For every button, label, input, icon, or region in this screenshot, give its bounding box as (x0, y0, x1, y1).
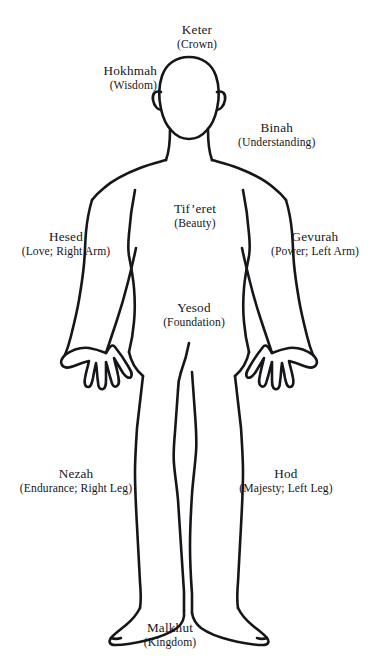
label-keter: Keter (Crown) (177, 22, 217, 51)
label-keter-gloss: (Crown) (177, 38, 217, 52)
label-malkhut-name: Malkhut (144, 620, 196, 636)
label-binah-name: Binah (238, 120, 315, 136)
label-binah: Binah (Understanding) (238, 120, 315, 149)
leg-right-inner (174, 390, 184, 611)
label-nezah-name: Nezah (20, 466, 132, 482)
crotch-right-inner (178, 372, 181, 390)
label-hesed: Hesed (Love; Right Arm) (22, 229, 111, 258)
label-tiferet: Tif’eret (Beauty) (174, 201, 216, 230)
label-gevurah-name: Gevurah (271, 229, 359, 245)
label-hesed-name: Hesed (22, 229, 111, 245)
label-tiferet-name: Tif’eret (174, 201, 216, 217)
label-malkhut-gloss: (Kingdom) (144, 636, 196, 650)
hand-right (61, 346, 132, 390)
label-gevurah: Gevurah (Power; Left Arm) (271, 229, 359, 258)
head-outline (159, 57, 219, 139)
label-yesod-gloss: (Foundation) (163, 316, 225, 330)
label-hokhmah-name: Hokhmah (104, 63, 157, 79)
label-yesod-name: Yesod (163, 300, 225, 316)
foot-right-toe (111, 638, 121, 639)
neck-right (166, 130, 170, 160)
crotch (181, 343, 189, 372)
label-hokhmah-gloss: (Wisdom) (104, 79, 157, 93)
label-hod: Hod (Majesty; Left Leg) (239, 466, 332, 495)
label-hod-name: Hod (239, 466, 332, 482)
label-malkhut: Malkhut (Kingdom) (144, 620, 196, 649)
neck-left (208, 130, 212, 160)
human-body-outline (0, 0, 378, 661)
label-yesod: Yesod (Foundation) (163, 300, 225, 329)
label-hokhmah: Hokhmah (Wisdom) (104, 63, 157, 92)
shoulder-right (92, 160, 166, 200)
label-nezah: Nezah (Endurance; Right Leg) (20, 466, 132, 495)
label-binah-gloss: (Understanding) (238, 136, 315, 150)
hand-left (246, 346, 317, 390)
leg-left-inner (190, 372, 196, 613)
shoulder-left (212, 160, 286, 200)
arm-right-outer (65, 200, 92, 355)
arm-left-outer (286, 200, 313, 355)
label-tiferet-gloss: (Beauty) (174, 217, 216, 231)
foot-left-toe (257, 638, 267, 639)
label-keter-name: Keter (177, 22, 217, 38)
label-nezah-gloss: (Endurance; Right Leg) (20, 482, 132, 496)
sefirot-body-diagram: Keter (Crown) Hokhmah (Wisdom) Binah (Un… (0, 0, 378, 661)
label-gevurah-gloss: (Power; Left Arm) (271, 245, 359, 259)
label-hesed-gloss: (Love; Right Arm) (22, 245, 111, 259)
label-hod-gloss: (Majesty; Left Leg) (239, 482, 332, 496)
foot-left (192, 608, 268, 645)
leg-right-outer (135, 376, 143, 608)
